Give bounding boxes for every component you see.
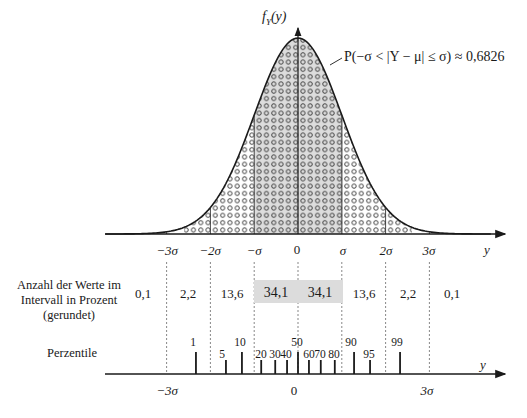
pct-cell: 34,1 — [264, 286, 289, 300]
percentile-label: 90 — [345, 337, 357, 349]
percentile-label: 80 — [328, 349, 340, 361]
percentile-label: 60 — [303, 349, 315, 361]
tick-sigma: σ — [340, 244, 346, 257]
probability-annotation: P(−σ < |Y − μ| ≤ σ) ≈ 0,6826 — [344, 50, 504, 64]
pct-cell: 13,6 — [221, 287, 244, 300]
tick-minus-2sigma: −2σ — [199, 244, 221, 257]
percentile-label: 99 — [391, 337, 403, 349]
normal-distribution-diagram: fY(y) P(−σ < |Y − μ| ≤ σ) ≈ 0,6826 −3σ −… — [0, 0, 527, 418]
tick-2sigma: 2σ — [380, 244, 393, 257]
percentile-label: 50 — [291, 337, 303, 349]
pct-cell: 2,2 — [400, 287, 416, 300]
tick-minus-sigma: −σ — [246, 244, 261, 257]
pct-cell: 0,1 — [135, 287, 151, 300]
pct-cell: 0,1 — [444, 287, 460, 300]
tick-zero: 0 — [294, 243, 301, 256]
tick-3sigma: 3σ — [423, 244, 436, 257]
percentile-row-label: Perzentile — [47, 346, 97, 361]
percentile-label: 95 — [363, 349, 375, 361]
pct-cell: 13,6 — [353, 287, 376, 300]
annotation-leader-line — [330, 58, 342, 65]
percentile-label: 70 — [314, 349, 326, 361]
percentile-label: 1 — [190, 337, 196, 349]
pct-cell: 34,1 — [308, 286, 333, 300]
percentile-axis-label: y — [480, 358, 486, 371]
pct-cell: 2,2 — [180, 287, 196, 300]
bottom-tick-minus-3sigma: −3σ — [156, 384, 178, 397]
percentile-label: 40 — [280, 349, 292, 361]
tick-minus-3sigma: −3σ — [156, 244, 178, 257]
percentile-label: 30 — [269, 349, 281, 361]
percentile-label: 5 — [219, 349, 225, 361]
percentile-label: 10 — [234, 337, 246, 349]
bottom-tick-3sigma: 3σ — [421, 384, 434, 397]
density-label: fY(y) — [262, 10, 286, 27]
x-axis-label: y — [484, 243, 490, 256]
interval-row-label: Anzahl der Werte im Intervall in Prozent… — [2, 278, 136, 323]
percentile-label: 20 — [255, 349, 267, 361]
bottom-tick-zero: 0 — [291, 384, 298, 397]
